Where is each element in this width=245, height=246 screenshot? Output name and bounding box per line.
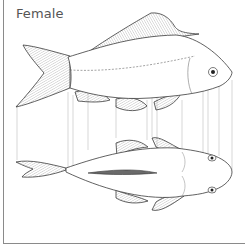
lateral-fish [16, 13, 232, 111]
ventral-fish [16, 138, 232, 211]
fish-illustration [0, 0, 245, 246]
diagram-frame: Female [0, 0, 245, 246]
